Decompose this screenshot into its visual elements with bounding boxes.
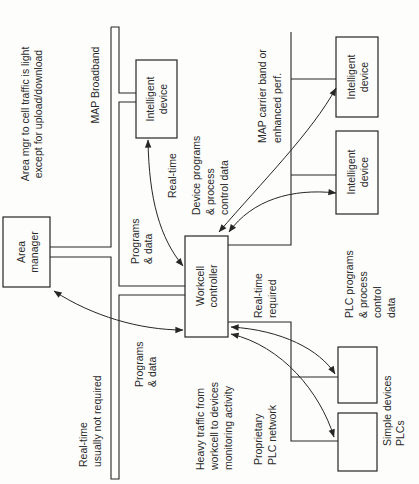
device-programs-note: Device programs — [190, 136, 202, 215]
heavy-traffic-note: Heavy traffic from — [194, 388, 206, 470]
realtime-not-required-note: Real-time — [77, 422, 89, 467]
intelligent-device-carrier-upper-label: Intelligent — [345, 54, 357, 99]
diagram-canvas: Area manager Intelligent device Workcell… — [0, 0, 419, 484]
plc-network-label: PLC network — [266, 404, 278, 465]
area-mgr-programs-note: & data — [146, 356, 158, 387]
realtime-not-required-note: usually not required — [91, 375, 103, 467]
simple-device-upper-box — [338, 347, 377, 403]
workcell-controller-label: controller — [207, 264, 219, 308]
area-mgr-traffic-note: except for upload/download — [32, 50, 44, 179]
device-programs-note: control data — [218, 160, 230, 215]
device-programs-note: & process — [204, 168, 216, 215]
intelligent-device-carrier-lower-label: Intelligent — [345, 149, 357, 194]
arrow-workcell-carrier-lower-device — [229, 192, 336, 232]
plc-programs-note: PLC programs — [343, 250, 355, 318]
intelligent-device-carrier-lower-box — [336, 131, 378, 214]
broadband-device-programs-note: Programs — [129, 218, 141, 264]
map-carrier-band-label: MAP carrier band or — [256, 49, 268, 143]
plc-programs-note: data — [385, 297, 397, 318]
arrow-workcell-simple-device-upper — [231, 327, 335, 374]
simple-device-lower-box — [338, 413, 377, 471]
realtime-required-note: required — [266, 279, 278, 318]
broadband-device-programs-note: & data — [142, 233, 154, 264]
map-broadband-label: MAP Broadband — [89, 46, 101, 123]
map-carrier-band-label: enhanced perf. — [271, 73, 283, 143]
area-manager-label: Area — [15, 241, 27, 263]
area-manager-label: manager — [28, 231, 40, 273]
area-mgr-traffic-note: Area mgr to cell traffic is light — [19, 47, 31, 182]
broadband-device-realtime-note: Real-time — [166, 153, 178, 198]
intelligent-device-carrier-upper-label: device — [358, 62, 370, 93]
intelligent-device-carrier-upper-box — [336, 37, 378, 117]
heavy-traffic-note: monitoring activity — [222, 385, 234, 470]
plc-programs-note: & process — [357, 271, 369, 318]
realtime-required-note: Real-time — [252, 273, 264, 318]
simple-devices-note: Simple devices — [381, 375, 393, 446]
workcell-controller-label: Workcell — [194, 266, 206, 306]
network-diagram: Area manager Intelligent device Workcell… — [0, 0, 419, 484]
plc-programs-note: control — [371, 286, 383, 318]
arrow-workcell-simple-device-lower — [231, 334, 334, 437]
plc-network-label: Proprietary — [252, 413, 264, 465]
plc-network-line — [228, 322, 338, 441]
intelligent-device-carrier-lower-label: device — [358, 157, 370, 188]
area-mgr-programs-note: Programs — [133, 341, 145, 387]
simple-devices-note: PLCs — [394, 420, 406, 446]
heavy-traffic-note: workcell to devices — [208, 382, 220, 471]
intelligent-device-broadband-label: device — [157, 84, 169, 115]
intelligent-device-broadband-label: Intelligent — [144, 76, 156, 121]
